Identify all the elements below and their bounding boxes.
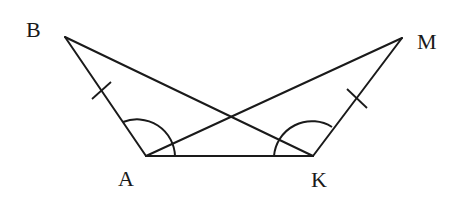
tick-mark-BA bbox=[92, 82, 111, 99]
point-label-A: A bbox=[118, 166, 134, 191]
tick-mark-KM bbox=[347, 89, 367, 108]
point-label-K: K bbox=[311, 167, 327, 192]
segment-BA bbox=[65, 37, 146, 156]
angle-arc-A bbox=[123, 119, 175, 156]
point-label-M: M bbox=[417, 29, 437, 54]
segment-KM bbox=[313, 38, 402, 156]
geometry-diagram: B A K M bbox=[0, 0, 475, 205]
point-label-B: B bbox=[26, 17, 41, 42]
